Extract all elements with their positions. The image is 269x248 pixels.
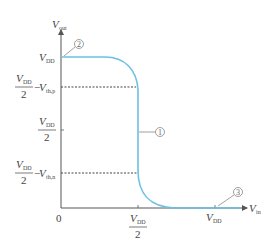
svg-text:DD: DD: [46, 58, 55, 64]
x-label-vdd2: V DD 2: [129, 212, 147, 240]
x-label-vdd: V DD: [206, 211, 222, 224]
y-label-vdd2: V DD 2: [38, 115, 56, 143]
svg-text:2: 2: [135, 228, 141, 240]
y-axis-label: V out: [52, 18, 67, 31]
annotation-2-text: 2: [77, 40, 81, 49]
svg-text:th,n: th,n: [46, 174, 55, 180]
svg-text:th,p: th,p: [46, 88, 55, 94]
svg-text:2: 2: [21, 174, 27, 186]
svg-text:2: 2: [44, 131, 50, 143]
y-label-vdd2-minus-vthp: V DD 2 − V th,p: [15, 72, 55, 100]
annotation-1-text: 1: [158, 128, 162, 137]
y-label-vdd2-minus-vthn: V DD 2 − V th,n: [15, 158, 55, 186]
vtc-diagram: 2 1 3 V out V in 0 V DD V DD 2 − V th,p …: [0, 0, 269, 248]
leader-line-2: [64, 47, 75, 56]
svg-text:DD: DD: [46, 122, 55, 128]
svg-text:2: 2: [21, 88, 27, 100]
leader-line-3: [218, 195, 234, 206]
y-label-vdd: V DD: [39, 51, 55, 64]
x-axis-label: V in: [249, 202, 261, 215]
origin-label: 0: [56, 212, 62, 224]
svg-text:DD: DD: [23, 165, 32, 171]
svg-text:DD: DD: [23, 79, 32, 85]
transfer-curve: [61, 57, 240, 208]
annotation-3-text: 3: [236, 188, 240, 197]
svg-text:out: out: [59, 25, 67, 31]
svg-text:DD: DD: [213, 218, 222, 224]
svg-text:in: in: [256, 209, 261, 215]
svg-text:DD: DD: [137, 219, 146, 225]
